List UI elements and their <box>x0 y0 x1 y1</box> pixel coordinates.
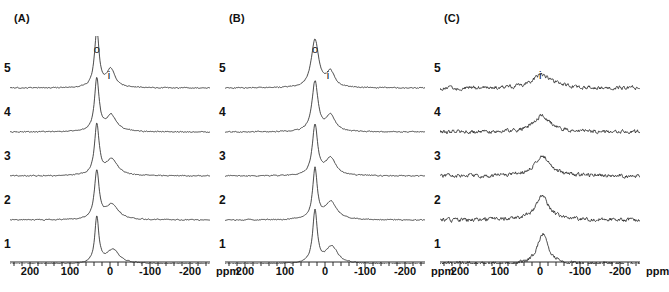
axis-tick-label-100: 100 <box>491 266 509 277</box>
panel-a: (A)54321oi2001000-100-200ppm <box>0 0 215 292</box>
spectra-svg-a <box>10 36 210 264</box>
spectrum-trace <box>440 156 640 178</box>
panel-b: (B)54321oi2001000-100-200ppm <box>215 0 430 292</box>
panel-label-c: (C) <box>444 12 460 24</box>
spectrum-trace <box>440 73 640 91</box>
x-axis-a: 2001000-100-200ppm <box>10 255 210 289</box>
panel-c: (C)54321i2001000-100-200ppm <box>430 0 645 292</box>
axis-tick-label-minus200: -200 <box>609 266 631 277</box>
plot-area-b <box>225 36 425 264</box>
spectrum-trace <box>10 170 210 221</box>
spectrum-trace <box>225 167 425 221</box>
axis-tick-label-200: 200 <box>236 266 254 277</box>
axis-tick-label-minus100: -100 <box>569 266 591 277</box>
axis-tick-label-100: 100 <box>276 266 294 277</box>
plot-area-a <box>10 36 210 264</box>
axis-tick-labels: 2001000-100-200ppm <box>225 266 425 286</box>
axis-tick-label-200: 200 <box>21 266 39 277</box>
axis-tick-label-100: 100 <box>61 266 79 277</box>
spectra-svg-b <box>225 36 425 264</box>
spectra-svg-c <box>440 36 640 264</box>
axis-unit-label: ppm <box>646 266 669 277</box>
spectrum-trace <box>225 39 425 89</box>
spectrum-trace <box>440 195 640 222</box>
spectrum-trace <box>10 78 210 133</box>
axis-tick-label-0: 0 <box>537 266 543 277</box>
spectrum-trace <box>440 114 640 133</box>
axis-tick-label-minus100: -100 <box>139 266 161 277</box>
spectrum-trace <box>10 36 210 89</box>
axis-tick-labels: 2001000-100-200ppm <box>440 266 640 286</box>
x-axis-c: 2001000-100-200ppm <box>440 255 640 289</box>
panel-label-b: (B) <box>229 12 245 24</box>
plot-area-c <box>440 36 640 264</box>
axis-tick-label-minus200: -200 <box>394 266 416 277</box>
spectrum-trace <box>225 81 425 133</box>
axis-tick-label-200: 200 <box>451 266 469 277</box>
axis-tick-labels: 2001000-100-200ppm <box>10 266 210 286</box>
axis-tick-label-minus200: -200 <box>179 266 201 277</box>
panel-label-a: (A) <box>14 12 30 24</box>
x-axis-b: 2001000-100-200ppm <box>225 255 425 289</box>
axis-tick-label-minus100: -100 <box>354 266 376 277</box>
axis-tick-label-0: 0 <box>107 266 113 277</box>
axis-tick-label-0: 0 <box>322 266 328 277</box>
